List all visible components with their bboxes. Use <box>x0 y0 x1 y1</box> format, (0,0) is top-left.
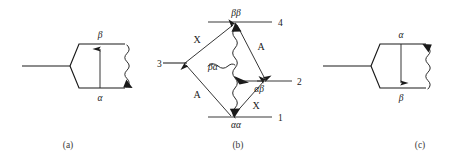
wavy-coherence-line-b <box>233 28 238 118</box>
wavy-coupling-line-c <box>426 47 430 89</box>
diagram-panel-b: 4 3 2 1 ββ αα αβ βα X A A X <box>155 0 320 156</box>
caption-a: (a) <box>48 140 88 150</box>
state-label-4: ββ <box>230 8 241 18</box>
transition-label-upper-left: X <box>193 34 201 45</box>
figure-root: β α 4 3 2 1 <box>0 0 472 156</box>
transition-3-to-4 <box>185 25 233 63</box>
transition-label-lower-right: X <box>252 100 260 111</box>
hexagon-upper-left-c <box>371 44 426 66</box>
state-label-2: αβ <box>254 84 264 94</box>
label-bottom-a: α <box>98 93 104 103</box>
level-number-2: 2 <box>297 77 302 87</box>
diagram-panel-c: α β <box>315 0 472 156</box>
transition-label-lower-left: A <box>193 89 201 100</box>
hexagon-lower-left-a <box>70 66 125 88</box>
label-top-a: β <box>97 30 103 40</box>
wavy-arrowhead-bottom-b <box>230 109 240 118</box>
transition-label-upper-right: A <box>257 41 265 52</box>
state-label-1: αα <box>231 120 242 130</box>
state-label-center: βα <box>207 62 219 72</box>
transition-4-to-2 <box>237 25 265 79</box>
level-number-3: 3 <box>157 59 162 69</box>
hexagon-lower-left-c <box>371 66 426 88</box>
diagram-panel-a: β α <box>0 0 160 156</box>
level-number-4: 4 <box>278 18 283 28</box>
caption-c: (c) <box>400 140 440 150</box>
caption-b: (b) <box>218 140 258 150</box>
label-bottom-c: β <box>398 93 404 103</box>
label-top-c: α <box>399 30 405 40</box>
level-number-1: 1 <box>278 113 283 123</box>
wavy-arrowhead-a <box>123 80 132 88</box>
wavy-arrowhead-top-b <box>232 23 242 32</box>
hexagon-upper-left-a <box>70 44 125 66</box>
